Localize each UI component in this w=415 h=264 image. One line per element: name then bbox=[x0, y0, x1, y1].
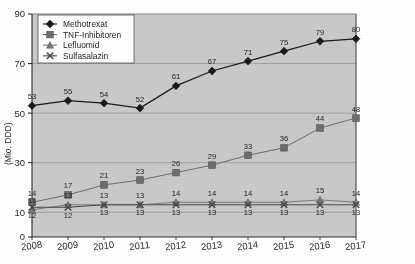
data-label-lefluomid-2010: 13 bbox=[100, 191, 108, 200]
x-tick-label-2010: 2010 bbox=[92, 239, 114, 252]
data-label-sulfasalazin-2009: 12 bbox=[64, 211, 72, 220]
legend-label-methotrexat: Methotrexat bbox=[63, 19, 108, 29]
data-label-lefluomid-2012: 14 bbox=[172, 189, 180, 198]
x-tick-label-2013: 2013 bbox=[200, 239, 222, 252]
data-label-sulfasalazin-2014: 13 bbox=[244, 208, 252, 217]
marker-square bbox=[281, 145, 288, 152]
marker-square bbox=[245, 152, 252, 159]
marker-square bbox=[101, 182, 108, 189]
x-tick-label-2011: 2011 bbox=[129, 239, 151, 252]
data-label-lefluomid-2014: 14 bbox=[244, 189, 252, 198]
data-label-tnf-inhibitoren-2012: 26 bbox=[172, 159, 180, 168]
data-label-methotrexat-2016: 79 bbox=[316, 28, 324, 37]
marker-square bbox=[173, 169, 180, 176]
y-tick-label-30: 30 bbox=[14, 157, 25, 168]
data-label-tnf-inhibitoren-2013: 29 bbox=[208, 152, 216, 161]
x-tick-text-2013: 2013 bbox=[200, 239, 222, 252]
line-chart: 01030507090(Mio. DDD)2008200920102011201… bbox=[0, 0, 415, 264]
data-label-lefluomid-2011: 13 bbox=[136, 191, 144, 200]
data-label-tnf-inhibitoren-2017: 48 bbox=[352, 105, 360, 114]
x-tick-text-2012: 2012 bbox=[164, 239, 186, 252]
x-tick-text-2016: 2016 bbox=[308, 239, 330, 252]
marker-square bbox=[47, 31, 54, 38]
x-tick-text-2010: 2010 bbox=[92, 239, 114, 252]
data-label-tnf-inhibitoren-2011: 23 bbox=[136, 167, 144, 176]
data-label-methotrexat-2015: 75 bbox=[280, 38, 288, 47]
x-tick-text-2015: 2015 bbox=[272, 239, 294, 252]
data-label-methotrexat-2014: 71 bbox=[244, 48, 252, 57]
data-label-methotrexat-2010: 54 bbox=[100, 90, 108, 99]
x-tick-text-2011: 2011 bbox=[129, 239, 151, 252]
data-label-tnf-inhibitoren-2009: 17 bbox=[64, 181, 72, 190]
legend-label-sulfasalazin: Sulfasalazin bbox=[63, 51, 109, 61]
data-label-sulfasalazin-2016: 13 bbox=[316, 208, 324, 217]
data-label-tnf-inhibitoren-2015: 36 bbox=[280, 134, 288, 143]
data-label-tnf-inhibitoren-2016: 44 bbox=[316, 114, 324, 123]
data-label-sulfasalazin-2012: 13 bbox=[172, 208, 180, 217]
data-label-sulfasalazin-2015: 13 bbox=[280, 208, 288, 217]
y-axis-title: (Mio. DDD) bbox=[3, 122, 13, 165]
y-tick-label-50: 50 bbox=[14, 108, 25, 119]
data-label-methotrexat-2012: 61 bbox=[172, 72, 180, 81]
x-tick-label-2009: 2009 bbox=[56, 239, 78, 252]
data-label-sulfasalazin-2011: 13 bbox=[136, 208, 144, 217]
y-tick-label-10: 10 bbox=[14, 207, 25, 218]
legend-label-tnf-inhibitoren: TNF-Inhibitoren bbox=[63, 30, 122, 40]
x-tick-text-2009: 2009 bbox=[56, 239, 78, 252]
data-label-lefluomid-2013: 14 bbox=[208, 189, 216, 198]
marker-square bbox=[353, 115, 360, 122]
x-tick-text-2017: 2017 bbox=[344, 239, 366, 252]
marker-square bbox=[209, 162, 216, 169]
marker-square bbox=[137, 177, 144, 184]
data-label-lefluomid-2017: 14 bbox=[352, 189, 360, 198]
x-tick-label-2015: 2015 bbox=[272, 239, 294, 252]
chart-container: 01030507090(Mio. DDD)2008200920102011201… bbox=[0, 0, 415, 264]
data-label-methotrexat-2011: 52 bbox=[136, 95, 144, 104]
data-label-sulfasalazin-2013: 13 bbox=[208, 208, 216, 217]
x-tick-label-2012: 2012 bbox=[164, 239, 186, 252]
data-label-methotrexat-2013: 67 bbox=[208, 57, 216, 66]
marker-square bbox=[317, 125, 324, 132]
data-label-tnf-inhibitoren-2010: 21 bbox=[100, 171, 108, 180]
data-label-tnf-inhibitoren-2014: 33 bbox=[244, 142, 252, 151]
x-tick-label-2008: 2008 bbox=[20, 239, 42, 252]
data-label-methotrexat-2008: 53 bbox=[28, 92, 36, 101]
chart-legend: MethotrexatTNF-InhibitorenLefluomidSulfa… bbox=[38, 15, 134, 63]
data-label-lefluomid-2009: 13 bbox=[64, 191, 72, 200]
x-tick-label-2017: 2017 bbox=[344, 239, 366, 252]
legend-label-lefluomid: Lefluomid bbox=[63, 40, 100, 50]
x-tick-text-2014: 2014 bbox=[236, 239, 258, 252]
data-label-sulfasalazin-2017: 13 bbox=[352, 208, 360, 217]
x-tick-label-2014: 2014 bbox=[236, 239, 258, 252]
y-tick-label-70: 70 bbox=[14, 58, 25, 69]
data-label-lefluomid-2015: 14 bbox=[280, 189, 288, 198]
x-tick-text-2008: 2008 bbox=[20, 239, 42, 252]
y-tick-label-90: 90 bbox=[14, 8, 25, 19]
x-tick-label-2016: 2016 bbox=[308, 239, 330, 252]
data-label-sulfasalazin-2010: 13 bbox=[100, 208, 108, 217]
data-label-sulfasalazin-2008: 12 bbox=[28, 211, 36, 220]
data-label-methotrexat-2009: 55 bbox=[64, 87, 72, 96]
data-label-methotrexat-2017: 80 bbox=[352, 25, 360, 34]
data-label-lefluomid-2016: 15 bbox=[316, 186, 324, 195]
